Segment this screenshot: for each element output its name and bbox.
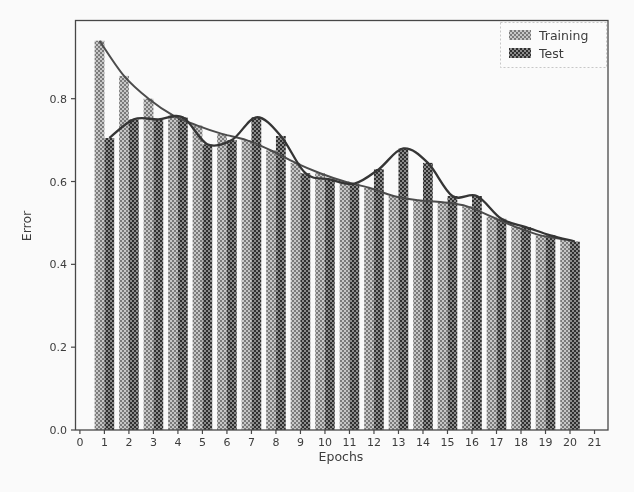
test-bar-epoch-3 [153,119,163,430]
test-bar-epoch-8 [276,136,286,430]
x-tick-label-16: 16 [465,436,479,449]
x-tick-label-21: 21 [588,436,602,449]
training-bar-epoch-1 [95,41,105,430]
training-bar-epoch-6 [217,134,227,430]
test-bar-epoch-7 [251,117,261,430]
training-bar-epoch-10 [315,173,325,430]
training-bar-epoch-3 [144,99,154,430]
test-bar-epoch-5 [202,144,212,430]
test-bar-epoch-1 [104,138,114,430]
y-tick-label-0.2: 0.2 [50,341,68,354]
training-bar-epoch-11 [340,182,350,430]
test-bar-epoch-9 [300,173,310,430]
test-bar-epoch-15 [447,196,457,430]
test-bar-epoch-17 [496,219,506,430]
x-tick-label-1: 1 [101,436,108,449]
plot-content: 01234567891011121314151617181920210.00.2… [50,41,602,449]
x-tick-label-6: 6 [223,436,230,449]
x-tick-label-2: 2 [125,436,132,449]
test-bar-epoch-4 [178,117,188,430]
test-bar-epoch-11 [349,184,359,430]
test-bar-epoch-14 [423,163,433,430]
y-tick-label-0.8: 0.8 [50,93,68,106]
x-tick-label-12: 12 [367,436,381,449]
test-bar-epoch-13 [398,148,408,430]
training-bar-epoch-18 [511,227,521,430]
training-bar-epoch-17 [487,217,497,430]
test-bar-epoch-18 [521,227,531,430]
training-bar-epoch-5 [193,126,203,430]
y-tick-label-0.0: 0.0 [50,424,68,437]
x-tick-label-20: 20 [563,436,577,449]
training-bar-epoch-9 [291,163,301,430]
legend-label-training: Training [538,28,588,43]
x-tick-label-5: 5 [199,436,206,449]
x-tick-label-17: 17 [489,436,503,449]
legend-swatch-training-icon [509,30,531,40]
training-bar-epoch-8 [266,150,276,430]
x-tick-label-15: 15 [440,436,454,449]
x-tick-label-10: 10 [318,436,332,449]
x-tick-label-14: 14 [416,436,430,449]
training-bar-epoch-13 [389,196,399,430]
legend: Training Test [501,23,607,68]
x-tick-label-0: 0 [76,436,83,449]
training-bar-epoch-20 [560,239,570,430]
y-tick-label-0.6: 0.6 [50,176,68,189]
x-tick-label-11: 11 [342,436,356,449]
error-vs-epochs-figure: 01234567891011121314151617181920210.00.2… [0,0,634,492]
x-tick-label-7: 7 [248,436,255,449]
legend-label-test: Test [538,46,564,61]
x-tick-label-18: 18 [514,436,528,449]
test-bar-epoch-19 [546,235,556,430]
x-tick-label-13: 13 [391,436,405,449]
x-tick-label-19: 19 [539,436,553,449]
y-tick-label-0.4: 0.4 [50,258,68,271]
error-vs-epochs-chart: 01234567891011121314151617181920210.00.2… [0,0,634,492]
training-bar-epoch-15 [438,202,448,430]
training-bar-epoch-4 [168,115,178,430]
test-bar-epoch-16 [472,196,482,430]
legend-swatch-test-icon [509,48,531,58]
x-tick-label-8: 8 [272,436,279,449]
x-tick-label-9: 9 [297,436,304,449]
x-axis-label: Epochs [319,449,364,464]
test-bar-epoch-6 [227,140,237,430]
training-bar-epoch-16 [462,206,472,430]
training-bar-epoch-7 [242,140,252,430]
training-bar-epoch-19 [536,235,546,430]
y-axis-label: Error [19,210,34,241]
x-tick-label-4: 4 [174,436,181,449]
test-bar-epoch-2 [129,119,139,430]
test-bar-epoch-20 [570,242,580,430]
training-bar-epoch-12 [364,188,374,430]
test-bar-epoch-10 [325,179,335,430]
test-bar-epoch-12 [374,169,384,430]
x-tick-label-3: 3 [150,436,157,449]
training-bar-epoch-14 [413,200,423,430]
